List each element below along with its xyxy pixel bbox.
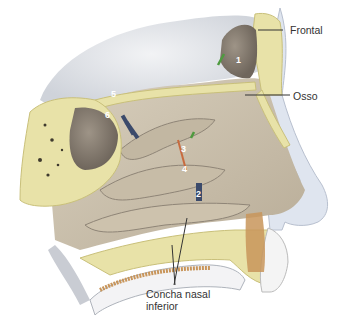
label-frontal: Frontal: [290, 24, 323, 36]
marker-4: 4: [182, 164, 187, 174]
incisor-root: [246, 212, 265, 272]
marker-6: 6: [105, 110, 110, 120]
marker-5: 5: [111, 89, 116, 99]
nasal-cavity-illustration: 1 2 3 4 5 6 Frontal Osso Concha nasal in…: [0, 0, 342, 325]
marker-1: 1: [236, 55, 241, 65]
label-osso: Osso: [293, 90, 318, 102]
anatomy-drawing: 1 2 3 4 5 6: [0, 0, 342, 325]
marker-3: 3: [181, 144, 186, 154]
soft-palate-mucosa: [48, 245, 90, 305]
label-concha-line2: inferior: [146, 300, 178, 312]
marker-2: 2: [196, 189, 201, 199]
label-concha-line1: Concha nasal: [146, 288, 210, 300]
